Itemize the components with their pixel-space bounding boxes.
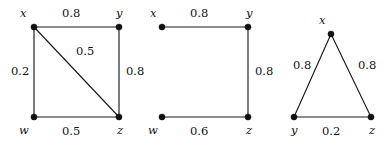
node-graph-1-x [31,24,37,30]
node-graph-3-x [328,31,334,37]
edge-weight-graph-1-x-z: 0.5 [76,46,94,58]
node-label-graph-2-y: y [246,8,253,20]
node-label-graph-3-z: z [369,125,375,137]
node-graph-2-x [159,24,165,30]
node-label-graph-1-x: x [20,8,27,20]
edge-weight-graph-3-x-z: 0.8 [358,60,376,72]
node-graph-2-y [245,24,251,30]
edge-graph-1-x-z [34,27,119,117]
weighted-graphs-figure: 0.80.20.50.80.5xywz0.80.80.6xywz0.80.80.… [0,0,388,147]
node-graph-1-y [116,24,122,30]
edge-weight-graph-2-w-z: 0.6 [190,126,208,138]
edge-graph-3-x-z [331,34,371,117]
edge-weight-graph-1-x-w: 0.2 [11,66,29,78]
node-graph-2-w [159,114,165,120]
node-graph-2-z [245,114,251,120]
edges-layer [34,27,371,117]
node-label-graph-2-z: z [246,125,252,137]
node-label-graph-2-w: w [148,125,158,137]
node-graph-3-z [368,114,374,120]
node-graph-1-w [31,114,37,120]
node-label-graph-1-z: z [117,125,123,137]
edge-weight-graph-2-y-z: 0.8 [255,66,273,78]
edge-weight-graph-3-y-z: 0.2 [322,126,340,138]
node-label-graph-1-w: w [19,125,29,137]
node-label-graph-3-y: y [291,125,298,137]
node-label-graph-3-x: x [319,15,326,27]
nodes-layer [31,24,374,120]
node-graph-3-y [291,114,297,120]
edge-weight-graph-1-x-y: 0.8 [62,8,80,20]
edge-graph-3-x-y [294,34,331,117]
edge-weight-graph-2-x-y: 0.8 [190,8,208,20]
edge-weight-graph-3-x-y: 0.8 [293,60,311,72]
node-graph-1-z [116,114,122,120]
node-label-graph-2-x: x [150,8,157,20]
edge-weight-graph-1-w-z: 0.5 [62,126,80,138]
edge-weight-graph-1-y-z: 0.8 [126,66,144,78]
node-label-graph-1-y: y [116,8,123,20]
